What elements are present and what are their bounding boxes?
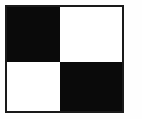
checker-cell-top-right [60, 7, 122, 62]
checker-cell-bottom-right [60, 62, 122, 111]
checker-field [7, 7, 122, 111]
image-canvas [0, 0, 142, 119]
checker-frame [5, 5, 124, 113]
checker-cell-bottom-left [7, 62, 60, 111]
checker-cell-top-left [7, 7, 60, 62]
